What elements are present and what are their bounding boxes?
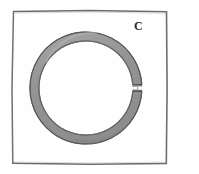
figure-drawing [0,0,199,174]
figure-panel: C [0,0,199,174]
